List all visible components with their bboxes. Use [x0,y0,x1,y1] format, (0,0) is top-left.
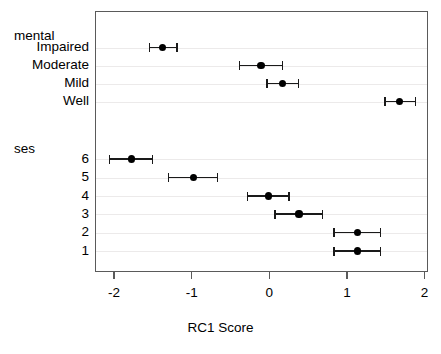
data-point-ses-2 [354,229,361,236]
row-label-ses-6: 6 [81,152,89,166]
data-point-mental-moderate [257,62,264,69]
row-label-mental-moderate: Moderate [32,58,89,72]
row-label-ses-3: 3 [81,207,89,221]
row-label-ses-5: 5 [81,170,89,184]
error-cap-high [298,79,299,88]
x-tick [191,272,192,279]
row-label-mental-mild: Mild [64,76,89,90]
x-tick [424,272,425,279]
error-cap-high [415,97,416,106]
error-cap-low [168,173,169,182]
error-cap-low [109,155,110,164]
data-point-mental-mild [279,80,286,87]
error-cap-low [247,192,248,201]
row-label-mental-impaired: Impaired [36,40,89,54]
data-point-ses-6 [128,155,135,162]
x-tick-label: -1 [186,286,198,300]
gridline [96,48,427,49]
category-label-column: mentalsesImpairedModerateMildWell654321 [0,0,89,354]
x-tick-label: 2 [421,286,429,300]
x-tick-label: 0 [266,286,274,300]
error-cap-low [333,247,334,256]
data-point-mental-well [396,98,403,105]
row-label-ses-4: 4 [81,189,89,203]
error-cap-high [322,210,323,219]
error-cap-high [176,43,177,52]
gridline [96,178,427,179]
data-point-ses-3 [295,210,302,217]
error-cap-high [380,247,381,256]
x-axis-title: RC1 Score [0,321,441,335]
x-tick-label: -2 [108,286,120,300]
x-tick [346,272,347,279]
data-point-ses-1 [354,247,361,254]
row-label-mental-well: Well [63,94,89,108]
data-point-mental-impaired [159,44,166,51]
plot-area [95,11,428,272]
dot-plot-figure: mentalsesImpairedModerateMildWell654321 … [0,0,441,354]
group-header-ses: ses [14,142,35,156]
gridline [96,214,427,215]
gridline [96,84,427,85]
error-cap-high [217,173,218,182]
error-cap-high [152,155,153,164]
gridline [96,102,427,103]
error-cap-high [282,61,283,70]
error-cap-low [266,79,267,88]
row-label-ses-1: 1 [81,244,89,258]
x-tick [269,272,270,279]
error-cap-high [288,192,289,201]
x-tick [113,272,114,279]
data-point-ses-4 [265,192,272,199]
x-tick-label: 1 [343,286,351,300]
error-cap-low [239,61,240,70]
error-cap-low [149,43,150,52]
error-cap-high [380,228,381,237]
error-cap-low [333,228,334,237]
error-cap-low [384,97,385,106]
data-point-ses-5 [190,174,197,181]
error-cap-low [274,210,275,219]
row-label-ses-2: 2 [81,225,89,239]
